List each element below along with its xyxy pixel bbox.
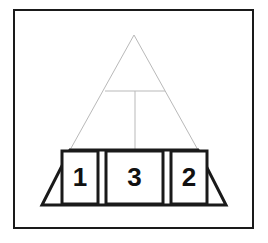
base-cell-2-label: 2: [171, 164, 207, 190]
base-cell-1-label: 1: [62, 164, 98, 190]
pyramid-diagram-svg: [0, 0, 268, 243]
base-cell-3-label: 3: [106, 164, 163, 190]
diagram-canvas: 1 3 2: [0, 0, 268, 243]
